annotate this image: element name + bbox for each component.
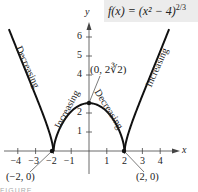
x-tick-label: 3 bbox=[140, 155, 145, 166]
x-tick-label: −1 bbox=[64, 155, 75, 166]
x-axis-label: x bbox=[182, 144, 186, 155]
left-cusp-label: (−2, 0) bbox=[6, 171, 35, 182]
x-tick-label: 2 bbox=[122, 155, 127, 166]
left-cusp-point bbox=[50, 149, 54, 153]
y-axis-arrow-icon bbox=[87, 22, 92, 30]
y-tick-label: 4 bbox=[77, 68, 82, 79]
y-tick-label: 2 bbox=[77, 106, 82, 117]
y-tick-label: 6 bbox=[77, 30, 82, 41]
x-axis-arrow-icon bbox=[172, 149, 180, 154]
x-tick-label: −4 bbox=[10, 155, 21, 166]
y-tick-label: 1 bbox=[77, 125, 82, 136]
figure-caption: FIGURE bbox=[0, 187, 32, 192]
x-tick-label: 4 bbox=[158, 155, 163, 166]
peak-point-label: (0, 2∛2) bbox=[90, 63, 126, 76]
x-tick-label: 1 bbox=[104, 155, 109, 166]
right-cusp-label: (2, 0) bbox=[136, 171, 159, 182]
y-axis-label: y bbox=[85, 6, 89, 17]
x-tick-label: −2 bbox=[46, 155, 57, 166]
peak-point bbox=[87, 101, 91, 105]
right-cusp-point bbox=[122, 149, 126, 153]
x-tick-label: −3 bbox=[28, 155, 39, 166]
y-tick-label: 5 bbox=[77, 49, 82, 60]
